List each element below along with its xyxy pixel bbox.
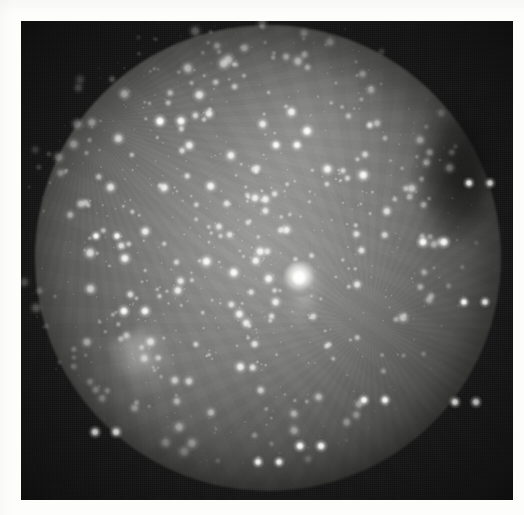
starfield xyxy=(21,21,513,500)
photographic-plate xyxy=(21,21,513,500)
page-canvas xyxy=(0,0,524,515)
comet-nucleus xyxy=(292,270,306,285)
